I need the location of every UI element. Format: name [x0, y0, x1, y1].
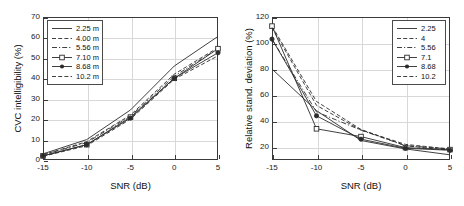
legend-line-sample-icon [396, 53, 418, 62]
legend-line-sample-icon [51, 53, 73, 62]
x-axis-tick-label: 0 [403, 164, 407, 172]
x-axis-tick-label: -5 [357, 164, 364, 172]
x-axis-title: SNR (dB) [110, 180, 151, 191]
series-marker-circle [216, 51, 220, 55]
x-axis-tick-label: 5 [216, 164, 220, 172]
x-axis-tick-label: -10 [311, 164, 323, 172]
legend-item-label: 5.56 m [76, 43, 99, 52]
legend-item-label: 2.25 [421, 24, 436, 33]
series-marker-circle [270, 37, 274, 41]
legend-item[interactable]: 2.25 m [51, 24, 98, 34]
legend-item-label: 7.1 [421, 53, 431, 62]
series-marker-circle [314, 114, 318, 118]
x-axis-tick-label: -15 [37, 164, 49, 172]
legend-item[interactable]: 10.2 m [51, 72, 98, 82]
legend-item-label: 10.2 m [76, 72, 99, 81]
legend-item[interactable]: 4 [396, 34, 441, 44]
legend-item[interactable]: 8.68 m [51, 62, 98, 72]
legend-left: 2.25 m4.00 m5.56 m7.10 m8.68 m10.2 m [47, 20, 103, 85]
y-axis-title: CVC intelligibility (%) [12, 17, 23, 160]
figure-container: 2.25 m4.00 m5.56 m7.10 m8.68 m10.2 m -15… [0, 0, 464, 206]
legend-line-sample-icon [396, 24, 418, 33]
x-axis-tick [451, 155, 452, 159]
legend-item[interactable]: 8.68 [396, 62, 441, 72]
legend-line-sample-icon [396, 43, 418, 52]
legend-line-sample-icon [51, 34, 73, 43]
legend-right: 2.2545.567.18.6810.2 [392, 20, 446, 85]
x-axis-tick-label: 0 [172, 164, 176, 172]
series-marker-circle [359, 137, 363, 141]
legend-line-sample-icon [51, 24, 73, 33]
legend-line-sample-icon [396, 62, 418, 71]
x-axis-tick-label: -15 [266, 164, 278, 172]
chart-panel-right: 2.2545.567.18.6810.2 -15-10-505204060801… [232, 0, 464, 206]
legend-item[interactable]: 7.10 m [51, 53, 98, 63]
y-axis-title: Relative stand. deviation (%) [243, 17, 254, 160]
series-marker-circle [403, 146, 407, 150]
legend-item[interactable]: 5.56 m [51, 43, 98, 53]
legend-item[interactable]: 5.56 [396, 43, 441, 53]
legend-item-label: 7.10 m [76, 53, 99, 62]
legend-item-label: 10.2 [421, 72, 436, 81]
legend-line-sample-icon [51, 43, 73, 52]
x-axis-tick-label: 5 [448, 164, 452, 172]
legend-item-label: 2.25 m [76, 24, 99, 33]
legend-item[interactable]: 10.2 [396, 72, 441, 82]
legend-item-label: 8.68 m [76, 62, 99, 71]
legend-item[interactable]: 2.25 [396, 24, 441, 34]
series-marker-square [314, 127, 319, 132]
legend-item-label: 8.68 [421, 62, 436, 71]
x-axis-tick [219, 155, 220, 159]
chart-panel-left: 2.25 m4.00 m5.56 m7.10 m8.68 m10.2 m -15… [0, 0, 232, 206]
legend-item-label: 4 [421, 34, 425, 43]
x-axis-title: SNR (dB) [341, 180, 382, 191]
legend-item-label: 5.56 [421, 43, 436, 52]
legend-item-label: 4.00 m [76, 34, 99, 43]
legend-line-sample-icon [396, 72, 418, 81]
legend-item[interactable]: 4.00 m [51, 34, 98, 44]
legend-line-sample-icon [51, 62, 73, 71]
y-axis-tick [44, 161, 48, 162]
legend-line-sample-icon [396, 34, 418, 43]
legend-item[interactable]: 7.1 [396, 53, 441, 63]
legend-line-sample-icon [51, 72, 73, 81]
x-axis-tick-label: -5 [127, 164, 134, 172]
x-axis-tick-label: -10 [81, 164, 93, 172]
